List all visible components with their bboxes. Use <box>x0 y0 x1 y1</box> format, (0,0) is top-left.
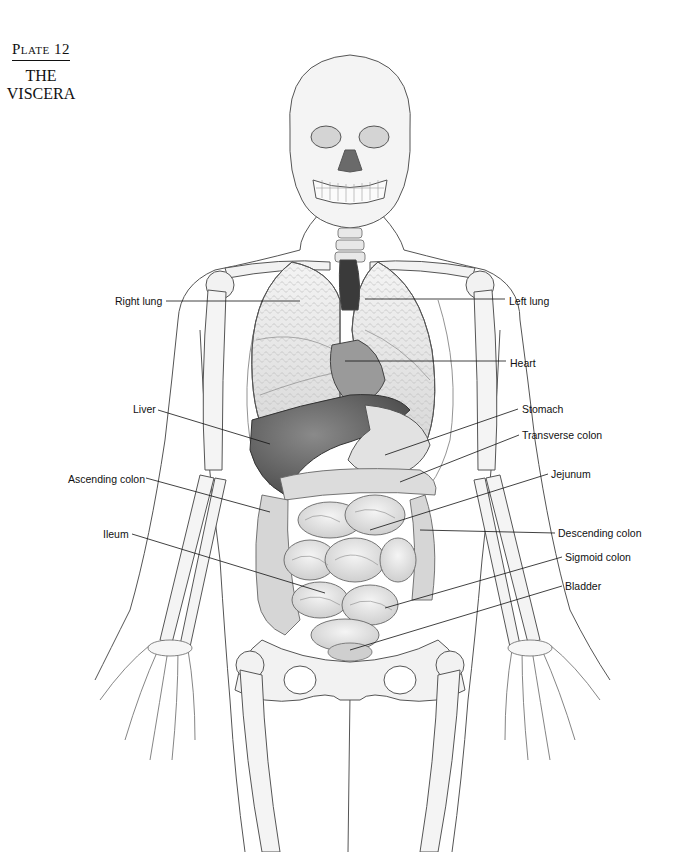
label-bladder: Bladder <box>565 580 601 592</box>
label-right-lung: Right lung <box>115 295 162 307</box>
label-stomach: Stomach <box>522 403 563 415</box>
label-ileum: Ileum <box>103 528 129 540</box>
label-descending-colon: Descending colon <box>558 527 641 539</box>
label-liver: Liver <box>133 403 156 415</box>
label-transverse-colon: Transverse colon <box>522 429 602 441</box>
skull <box>290 55 411 228</box>
anatomy-illustration <box>0 0 674 852</box>
transverse-colon <box>280 469 436 500</box>
small-intestine <box>284 495 416 651</box>
label-ascending-colon: Ascending colon <box>68 473 145 485</box>
label-jejunum: Jejunum <box>551 468 591 480</box>
neck-vertebrae <box>335 228 365 262</box>
label-heart: Heart <box>510 357 536 369</box>
label-sigmoid-colon: Sigmoid colon <box>565 551 631 563</box>
label-left-lung: Left lung <box>509 295 549 307</box>
